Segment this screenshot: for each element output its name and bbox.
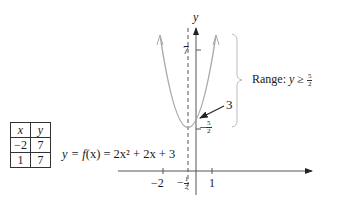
table-header-y: y <box>31 123 51 138</box>
table-row: 1 7 <box>11 153 51 168</box>
tick-label-neg-half: −12 <box>177 175 189 191</box>
range-brace <box>232 34 242 127</box>
range-label: Range: y ≥ 52 <box>252 72 312 88</box>
tick-label-vertex: –52 <box>200 119 212 135</box>
parabola-graph <box>0 0 349 200</box>
function-label: y = f(x) = 2x² + 2x + 3 <box>62 147 175 162</box>
xy-table: x y −2 7 1 7 <box>10 122 51 168</box>
table-row: −2 7 <box>11 138 51 153</box>
tick-label-neg2: −2 <box>151 176 164 191</box>
intercept-arrow <box>200 106 224 118</box>
intercept-label: 3 <box>226 97 233 113</box>
table-header-x: x <box>11 123 31 138</box>
tick-label-1: 1 <box>209 176 215 191</box>
tick-label-7: 7 <box>183 43 189 58</box>
y-axis-label: y <box>193 10 198 25</box>
